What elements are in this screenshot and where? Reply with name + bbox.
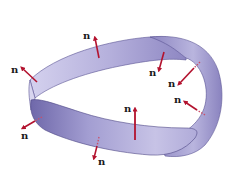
- normal-label-right-upper: n: [168, 78, 176, 89]
- normal-label-left: n: [11, 64, 19, 75]
- normal-label-bottom: n: [98, 156, 106, 167]
- strip-front-band: [31, 100, 197, 155]
- normal-vector-left: [22, 68, 37, 82]
- normal-label-top-left: n: [83, 30, 91, 41]
- normal-label-top-inner: n: [149, 67, 157, 78]
- diagram-canvas: n n n n n n n n: [0, 0, 233, 172]
- mobius-strip-diagram: n n n n n n n n: [0, 0, 233, 172]
- normal-label-left-lower: n: [21, 130, 29, 141]
- normal-vector-right-mid: [185, 102, 205, 115]
- normal-label-right-mid: n: [174, 94, 182, 105]
- normal-label-center: n: [124, 103, 132, 114]
- strip-back-band: [30, 37, 188, 98]
